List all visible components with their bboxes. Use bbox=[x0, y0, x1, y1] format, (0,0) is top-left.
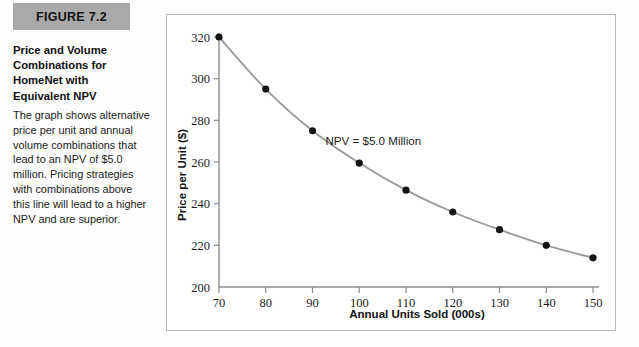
axis-lines bbox=[219, 33, 599, 287]
x-tick-label: 90 bbox=[306, 296, 319, 310]
data-point bbox=[496, 226, 503, 233]
x-tick-label: 140 bbox=[537, 296, 556, 310]
data-point bbox=[589, 254, 596, 261]
chart-canvas: 200220240260280300320 708090100110120130… bbox=[167, 15, 615, 330]
x-tick-label: 80 bbox=[260, 296, 273, 310]
x-axis-ticks: 708090100110120130140150 bbox=[213, 287, 603, 310]
data-points-layer bbox=[215, 33, 596, 261]
y-axis-title: Price per Unit ($) bbox=[176, 129, 188, 221]
caption-column: FIGURE 7.2 Price and Volume Combinations… bbox=[0, 0, 156, 347]
annotation-layer: NPV = $5.0 Million bbox=[325, 134, 421, 147]
axis-layer bbox=[219, 33, 599, 287]
figure-description: The graph shows alternative price per un… bbox=[13, 108, 150, 226]
data-series-layer bbox=[219, 37, 593, 258]
y-axis-ticks: 200220240260280300320 bbox=[191, 31, 219, 295]
figure-title: Price and Volume Combinations for HomeNe… bbox=[13, 43, 145, 104]
data-point bbox=[449, 208, 456, 215]
data-point bbox=[543, 242, 550, 249]
x-tick-label: 150 bbox=[584, 296, 603, 310]
y-tick-label: 280 bbox=[191, 114, 210, 128]
y-tick-label: 260 bbox=[191, 156, 210, 170]
y-tick-label: 320 bbox=[191, 31, 210, 45]
x-tick-label: 70 bbox=[213, 296, 226, 310]
figure-number-label: FIGURE 7.2 bbox=[36, 10, 107, 24]
figure-number-badge: FIGURE 7.2 bbox=[13, 3, 130, 30]
data-point bbox=[356, 159, 363, 166]
y-tick-label: 200 bbox=[191, 281, 210, 295]
data-point bbox=[215, 33, 222, 40]
x-tick-label: 130 bbox=[490, 296, 509, 310]
data-point bbox=[402, 187, 409, 194]
data-point bbox=[262, 85, 269, 92]
x-axis-title: Annual Units Sold (000s) bbox=[349, 308, 485, 320]
chart-annotation: NPV = $5.0 Million bbox=[325, 134, 421, 147]
data-point bbox=[309, 127, 316, 134]
chart-frame: 200220240260280300320 708090100110120130… bbox=[166, 14, 616, 331]
y-tick-label: 300 bbox=[191, 72, 210, 86]
y-tick-label: 220 bbox=[191, 239, 210, 253]
series-curve bbox=[219, 37, 593, 258]
figure-page: FIGURE 7.2 Price and Volume Combinations… bbox=[0, 0, 639, 347]
y-tick-label: 240 bbox=[191, 197, 210, 211]
